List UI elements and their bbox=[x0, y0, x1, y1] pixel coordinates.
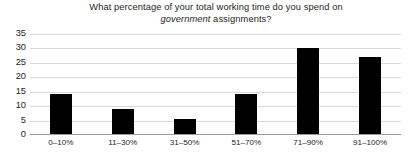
bar-slot bbox=[30, 34, 92, 136]
y-axis-tick-label: 20 bbox=[0, 72, 26, 81]
bar[interactable] bbox=[174, 119, 196, 135]
bar[interactable] bbox=[359, 57, 381, 135]
bar-slot bbox=[277, 34, 339, 136]
bar-slot bbox=[215, 34, 277, 136]
chart-title-line-2-rest: assignments? bbox=[210, 14, 271, 24]
x-axis-tick-label: 0–10% bbox=[30, 138, 92, 148]
x-axis-labels: 0–10%11–30%31–50%51–70%71–90%91–100% bbox=[30, 138, 401, 148]
x-axis-tick-label: 31–50% bbox=[154, 138, 216, 148]
y-axis-tick-label: 0 bbox=[0, 130, 26, 139]
x-axis-tick-label: 11–30% bbox=[92, 138, 154, 148]
bar-slot bbox=[339, 34, 401, 136]
bar-slot bbox=[92, 34, 154, 136]
x-axis-tick-label: 51–70% bbox=[215, 138, 277, 148]
x-axis-tick-label: 71–90% bbox=[277, 138, 339, 148]
bar[interactable] bbox=[112, 109, 134, 135]
chart-title-line-1: What percentage of your total working ti… bbox=[89, 2, 342, 12]
bar-series bbox=[30, 34, 401, 136]
y-axis-tick-label: 10 bbox=[0, 101, 26, 110]
y-axis-tick-label: 5 bbox=[0, 116, 26, 125]
bar[interactable] bbox=[235, 94, 257, 135]
x-axis-line bbox=[30, 134, 401, 135]
y-axis-tick-label: 35 bbox=[0, 29, 26, 38]
x-axis-tick-label: 91–100% bbox=[339, 138, 401, 148]
y-axis-tick-label: 25 bbox=[0, 58, 26, 67]
bar-chart: What percentage of your total working ti… bbox=[0, 0, 408, 159]
chart-title: What percentage of your total working ti… bbox=[30, 1, 402, 25]
bar[interactable] bbox=[297, 48, 319, 135]
y-axis-tick-label: 30 bbox=[0, 43, 26, 52]
y-axis-tick-label: 15 bbox=[0, 87, 26, 96]
bar-slot bbox=[154, 34, 216, 136]
plot-area: 05101520253035 bbox=[30, 34, 401, 136]
bar[interactable] bbox=[50, 94, 72, 135]
chart-title-emphasis: government bbox=[160, 14, 210, 24]
